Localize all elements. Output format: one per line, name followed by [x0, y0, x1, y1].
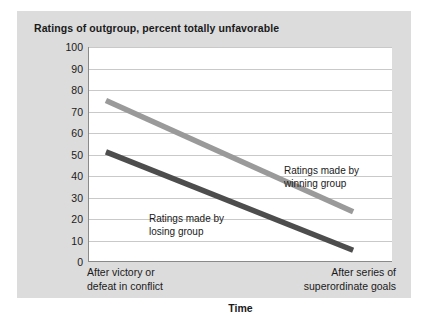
x-axis-category-label-1: After series of superordinate goals — [304, 266, 396, 293]
y-axis-tick-label: 20 — [71, 213, 83, 225]
y-axis-tick-label: 0 — [77, 256, 83, 268]
y-axis-tick-label: 100 — [65, 41, 83, 53]
data-lines — [89, 47, 392, 261]
annotation-line: Ratings made by — [149, 213, 224, 226]
y-axis-tick-label: 80 — [71, 84, 83, 96]
x-axis-category-line: After series of — [304, 266, 396, 280]
chart-title: Ratings of outgroup, percent totally unf… — [34, 22, 279, 34]
annotation-line: Ratings made by — [284, 165, 359, 178]
y-axis-tick-label: 60 — [71, 127, 83, 139]
y-axis-tick-label: 70 — [71, 106, 83, 118]
chart-figure-panel: Ratings of outgroup, percent totally unf… — [17, 11, 411, 298]
x-axis-category-line: superordinate goals — [304, 280, 396, 294]
y-axis-tick-label: 50 — [71, 149, 83, 161]
annotation-line: winning group — [284, 178, 359, 191]
x-axis-category-line: defeat in conflict — [87, 280, 163, 294]
y-axis-tick-label: 90 — [71, 63, 83, 75]
x-axis-category-label-0: After victory or defeat in conflict — [87, 266, 163, 293]
plot-area: 100 90 80 70 60 50 40 30 20 10 0 Ratings… — [88, 47, 392, 262]
y-axis-tick-label: 10 — [71, 235, 83, 247]
annotation-line: losing group — [149, 226, 224, 239]
gridline: 0 — [89, 262, 392, 263]
y-axis-tick-label: 30 — [71, 192, 83, 204]
x-axis-title: Time — [89, 302, 392, 314]
annotation-losing-group: Ratings made by losing group — [149, 213, 224, 238]
x-axis-category-line: After victory or — [87, 266, 163, 280]
annotation-winning-group: Ratings made by winning group — [284, 165, 359, 190]
series-line-winning-group — [106, 101, 353, 212]
y-axis-tick-label: 40 — [71, 170, 83, 182]
